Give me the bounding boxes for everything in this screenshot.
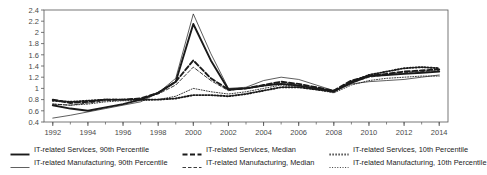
y-tick-label: 1 [35, 84, 39, 93]
series-line [53, 24, 439, 111]
x-tick-label: 2010 [361, 128, 378, 137]
x-tick-label: 1998 [150, 128, 167, 137]
legend-swatch-icon [329, 145, 349, 154]
y-tick-label: 0.6 [29, 107, 39, 116]
legend-label: IT-related Services, 10th Percentile [353, 145, 468, 154]
x-tick-label: 2004 [255, 128, 272, 137]
legend-swatch-icon [182, 158, 202, 167]
legend-row: IT-related Services, 90th Percentile IT-… [10, 143, 472, 156]
series-line [53, 76, 439, 105]
y-tick-label: 0.8 [29, 95, 39, 104]
legend-item: IT-related Services, 10th Percentile [329, 143, 472, 156]
legend-swatch-icon [182, 145, 202, 154]
x-tick-label: 1992 [44, 128, 61, 137]
legend-item: IT-related Manufacturing, 10th Percentil… [329, 156, 472, 169]
legend-label: IT-related Manufacturing, Median [206, 158, 314, 167]
legend-label: IT-related Services, Median [206, 145, 296, 154]
legend-item: IT-related Manufacturing, 90th Percentil… [10, 156, 182, 169]
x-tick-label: 2012 [396, 128, 413, 137]
legend-item: IT-related Manufacturing, Median [182, 156, 329, 169]
x-tick-label: 2000 [185, 128, 202, 137]
series-line [53, 60, 439, 103]
y-tick-label: 1.6 [29, 51, 39, 60]
legend-swatch-icon [329, 158, 349, 167]
legend-label: IT-related Manufacturing, 90th Percentil… [34, 158, 168, 167]
chart-legend: IT-related Services, 90th Percentile IT-… [10, 143, 472, 173]
series-line [53, 67, 439, 102]
legend-item: IT-related Services, Median [182, 143, 329, 156]
y-tick-label: 2.4 [29, 6, 39, 15]
x-tick-label: 2008 [325, 128, 342, 137]
x-tick-label: 1994 [80, 128, 97, 137]
y-tick-label: 0.4 [29, 118, 39, 127]
legend-swatch-icon [10, 158, 30, 167]
x-tick-label: 1996 [115, 128, 132, 137]
legend-swatch-icon [10, 145, 30, 154]
y-tick-label: 1.4 [29, 62, 39, 71]
legend-row: IT-related Manufacturing, 90th Percentil… [10, 156, 472, 169]
y-tick-label: 2.2 [29, 17, 39, 26]
x-tick-label: 2002 [220, 128, 237, 137]
x-tick-label: 2014 [431, 128, 448, 137]
x-tick-label: 2006 [290, 128, 307, 137]
y-tick-label: 1.8 [29, 39, 39, 48]
y-tick-label: 2 [35, 28, 39, 37]
y-tick-label: 1.2 [29, 73, 39, 82]
series-line [53, 14, 439, 118]
legend-label: IT-related Manufacturing, 10th Percentil… [353, 158, 487, 167]
legend-item: IT-related Services, 90th Percentile [10, 143, 182, 156]
legend-label: IT-related Services, 90th Percentile [34, 145, 149, 154]
